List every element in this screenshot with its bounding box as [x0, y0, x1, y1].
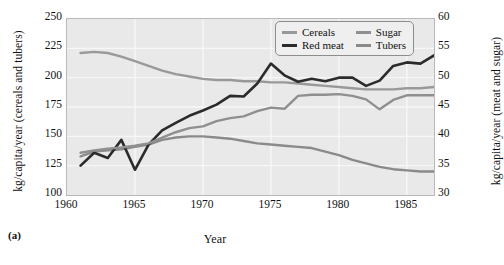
legend-label: Cereals: [302, 26, 335, 38]
x-tick-1980: 1980: [316, 198, 360, 210]
legend-label: Tubers: [376, 39, 406, 51]
x-tick-1970: 1970: [180, 198, 224, 210]
x-tick-1975: 1975: [248, 198, 292, 210]
series-line-red-meat: [81, 55, 434, 169]
legend-swatch-icon: [356, 31, 371, 34]
legend-item-tubers: Tubers: [356, 39, 406, 51]
x-tick-1960: 1960: [44, 198, 88, 210]
legend-item-red-meat: Red meat: [282, 39, 344, 51]
legend-swatch-icon: [282, 44, 297, 47]
legend-swatch-icon: [282, 31, 297, 34]
legend-swatch-icon: [356, 44, 371, 47]
figure-panel-a: kg/capita/year (cereals and tubers) kg/c…: [0, 0, 504, 265]
chart-legend: CerealsSugarRed meatTubers: [275, 21, 414, 56]
x-tick-1965: 1965: [112, 198, 156, 210]
legend-label: Red meat: [302, 39, 344, 51]
legend-item-cereals: Cereals: [282, 26, 344, 38]
x-tick-1985: 1985: [384, 198, 428, 210]
legend-label: Sugar: [376, 26, 402, 38]
legend-item-sugar: Sugar: [356, 26, 406, 38]
